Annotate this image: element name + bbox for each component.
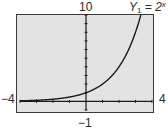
function-curve (20, 15, 141, 101)
graph-plot (0, 0, 168, 132)
axes (20, 15, 152, 110)
